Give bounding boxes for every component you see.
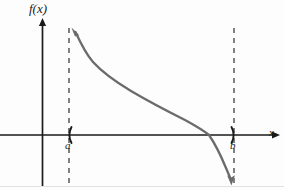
x-axis-label: x [269, 127, 274, 138]
figure-canvas: f(x) x a b [0, 0, 284, 190]
marker-label-b: b [230, 140, 236, 151]
y-axis-label: f(x) [29, 2, 47, 15]
function-curve [76, 32, 231, 179]
y-axis-arrow-icon [39, 18, 46, 26]
curve-top-arrow-icon [72, 28, 80, 37]
function-graph [0, 0, 284, 190]
marker-label-a: a [65, 140, 71, 151]
